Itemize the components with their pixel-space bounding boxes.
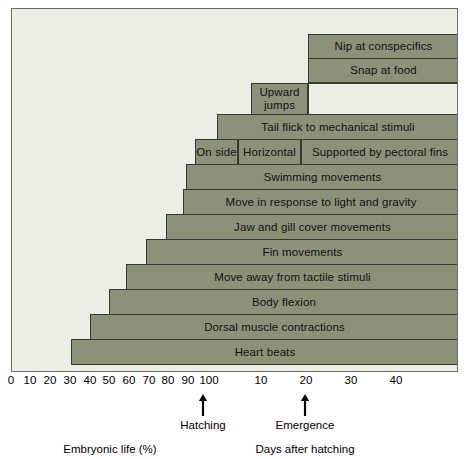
bar-segment: Move in response to light and gravity <box>183 189 458 215</box>
axis-tick-label: 40 <box>390 374 403 386</box>
axis-tick-label: 50 <box>103 374 116 386</box>
axis-tick-label: 30 <box>64 374 77 386</box>
bar-segment: Swimming movements <box>186 164 458 190</box>
axis-tick-label: 10 <box>255 374 268 386</box>
bar-segment: Snap at food <box>308 58 458 83</box>
axis-tick-label: 20 <box>44 374 57 386</box>
bar-segment: Tail flick to mechanical stimuli <box>217 114 458 140</box>
axis-tick-label: 30 <box>345 374 358 386</box>
bar-segment: Body flexion <box>109 289 458 315</box>
plot-area: Nip at conspecificsSnap at foodUpward ju… <box>11 8 458 372</box>
axis-tick-label: 10 <box>24 374 37 386</box>
axis-tick-label: 100 <box>199 374 218 386</box>
axis-tick-label: 20 <box>300 374 313 386</box>
x-axis-tick-labels: 010203040506070809010010203040 <box>0 374 466 392</box>
bar-segment: Move away from tactile stimuli <box>126 264 458 290</box>
axis-caption-days-after-hatching: Days after hatching <box>255 443 354 455</box>
axis-caption-embryonic-life: Embryonic life (%) <box>63 443 156 455</box>
bar-segment: Horizontal <box>238 139 301 165</box>
bar-segment: On side <box>195 139 238 165</box>
bar-segment: Dorsal muscle contractions <box>90 314 458 340</box>
axis-tick-label: 40 <box>84 374 97 386</box>
axis-tick-label: 70 <box>143 374 156 386</box>
bar-segment-empty <box>308 83 458 115</box>
axis-tick-label: 60 <box>123 374 136 386</box>
annotation-arrow-icon <box>199 394 208 416</box>
bar-segment: Jaw and gill cover movements <box>166 214 458 240</box>
bar-segment: Supported by pectoral fins <box>301 139 458 165</box>
bar-segment: Nip at conspecifics <box>308 34 458 59</box>
bar-segment: Heart beats <box>71 339 458 365</box>
annotation-label: Emergence <box>276 419 335 431</box>
axis-tick-label: 90 <box>182 374 195 386</box>
axis-tick-label: 80 <box>162 374 175 386</box>
developmental-timeline-chart: Nip at conspecificsSnap at foodUpward ju… <box>0 0 466 459</box>
axis-tick-label: 0 <box>8 374 14 386</box>
annotation-label: Hatching <box>180 419 225 431</box>
bar-segment: Upward jumps <box>251 83 308 115</box>
bar-segment: Fin movements <box>146 239 458 265</box>
annotation-arrow-icon <box>301 394 310 416</box>
